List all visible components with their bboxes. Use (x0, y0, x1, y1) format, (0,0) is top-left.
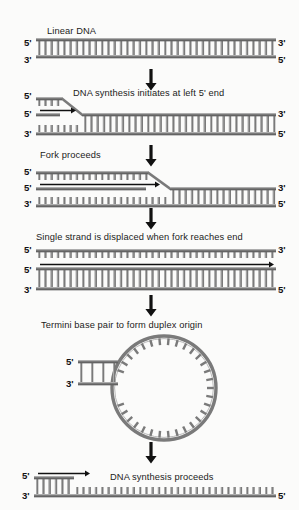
step-linear-dna: Linear DNA 5' 3' 3' 5' (0, 0, 299, 68)
step-synthesis-proceeds: DNA synthesis proceeds 5' 3' 5' (0, 468, 299, 510)
fork-progress-graphic (0, 150, 299, 208)
linear-dna-duplex-graphic (0, 0, 299, 68)
fork-initiation-graphic (0, 88, 299, 144)
step-strand-displaced: Single strand is displaced when fork rea… (0, 232, 299, 294)
step-fork-proceeds: Fork proceeds 5' 5' 3' 3' 5' (0, 150, 299, 208)
flow-arrow-3 (143, 208, 159, 230)
step-duplex-origin: Termini base pair to form duplex origin … (0, 320, 299, 442)
synthesis-proceeds-graphic (0, 468, 299, 510)
step-synthesis-initiates: DNA synthesis initiates at left 5' end 5… (0, 88, 299, 144)
flow-arrow-4 (143, 295, 159, 317)
flow-arrow-5 (143, 442, 159, 464)
displaced-strand-graphic (0, 232, 299, 294)
duplex-origin-circle-graphic (0, 320, 299, 442)
figure-canvas: Linear DNA 5' 3' 3' 5' DNA synthesis ini… (0, 0, 299, 510)
